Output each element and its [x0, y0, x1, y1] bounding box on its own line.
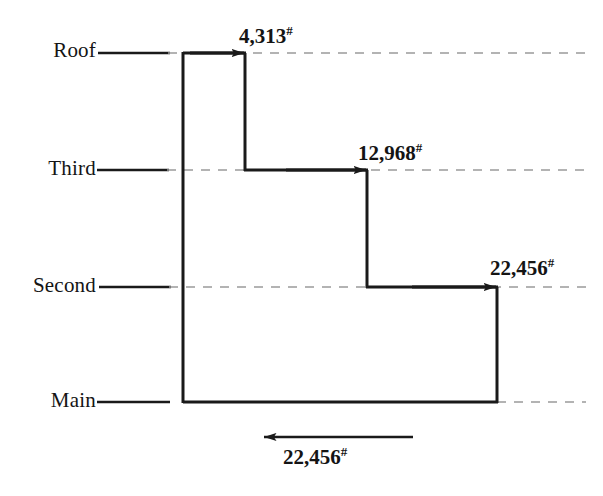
force-value-roof-shear: 4,313	[239, 24, 286, 48]
level-label-third: Third	[24, 158, 96, 179]
force-unit-base-shear: #	[341, 444, 348, 459]
force-unit-second-shear: #	[548, 255, 555, 270]
level-label-main: Main	[24, 390, 96, 411]
shear-profile	[183, 52, 498, 403]
force-unit-roof-shear: #	[286, 23, 293, 38]
force-value-second-shear: 22,456	[490, 256, 548, 280]
force-value-third-shear: 12,968	[358, 141, 416, 165]
force-unit-third-shear: #	[416, 140, 423, 155]
force-label-third-shear: 12,968#	[358, 143, 422, 164]
force-label-base-shear: 22,456#	[283, 447, 347, 468]
force-label-second-shear: 22,456#	[490, 258, 554, 279]
diagram-canvas	[0, 0, 603, 496]
level-label-roof: Roof	[24, 40, 96, 61]
level-label-second: Second	[12, 275, 96, 296]
force-label-roof-shear: 4,313#	[239, 26, 293, 47]
force-value-base-shear: 22,456	[283, 445, 341, 469]
shear-diagram: Roof Third Second Main 4,313# 12,968# 22…	[0, 0, 603, 496]
